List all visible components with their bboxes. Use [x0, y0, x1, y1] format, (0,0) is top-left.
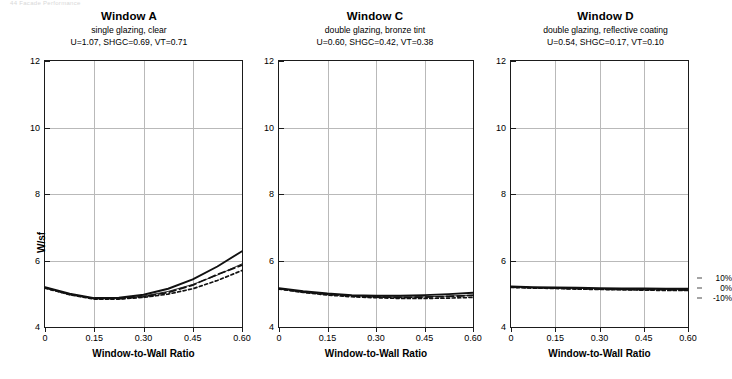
legend-label: -10%	[706, 294, 732, 303]
x-tick-label: 0.45	[416, 333, 434, 343]
panel-window-a: Window A single glazing, clear U=1.07, S…	[0, 6, 258, 379]
series-canvas	[279, 61, 473, 327]
x-tick-mark	[511, 327, 512, 332]
legend-item: 10%	[697, 273, 732, 282]
x-tick-mark	[644, 327, 645, 332]
panel-c-properties: U=0.60, SHGC=0.42, VT=0.38	[256, 37, 494, 47]
y-tick-label: 4	[269, 322, 274, 332]
legend-tick-icon	[697, 288, 702, 289]
panel-window-c: Window C double glazing, bronze tint U=0…	[256, 6, 494, 379]
x-tick-mark	[45, 327, 46, 332]
y-tick-label: 6	[501, 256, 506, 266]
x-tick-label: 0.60	[679, 333, 697, 343]
panel-d-plot-area: Window-to-Wall Ratio 10%0%-10% 468101200…	[510, 60, 689, 328]
x-tick-label: 0.15	[85, 333, 103, 343]
x-tick-mark	[376, 327, 377, 332]
series-canvas	[45, 61, 242, 327]
panel-a-properties: U=1.07, SHGC=0.69, VT=0.71	[0, 37, 258, 47]
y-tick-label: 10	[264, 123, 274, 133]
x-tick-label: 0.30	[591, 333, 609, 343]
y-tick-label: 10	[496, 123, 506, 133]
legend-label: 10%	[706, 273, 732, 282]
series-canvas	[511, 61, 688, 327]
panel-window-d: Window D double glazing, reflective coat…	[490, 6, 721, 379]
x-tick-label: 0.60	[464, 333, 482, 343]
panel-a-title: Window A	[0, 10, 258, 22]
legend-item: -10%	[697, 294, 732, 303]
x-tick-mark	[473, 327, 474, 332]
series-line	[45, 251, 242, 298]
x-tick-mark	[144, 327, 145, 332]
x-tick-mark	[425, 327, 426, 332]
panel-d-plot-box: Window-to-Wall Ratio 10%0%-10% 468101200…	[510, 60, 689, 328]
x-tick-label: 0	[508, 333, 513, 343]
y-tick-label: 10	[30, 123, 40, 133]
x-tick-mark	[242, 327, 243, 332]
x-tick-mark	[94, 327, 95, 332]
x-tick-mark	[279, 327, 280, 332]
panel-a-plot-area: W/sf Window-to-Wall Ratio 468101200.150.…	[44, 60, 243, 328]
legend-label: 0%	[706, 284, 732, 293]
legend-tick-icon	[697, 298, 702, 299]
x-tick-label: 0.15	[319, 333, 337, 343]
y-tick-label: 8	[501, 189, 506, 199]
y-tick-label: 4	[501, 322, 506, 332]
x-tick-label: 0.45	[635, 333, 653, 343]
panel-a-subtitle: single glazing, clear	[0, 25, 258, 35]
panel-a-x-axis-title: Window-to-Wall Ratio	[45, 348, 242, 359]
y-tick-label: 12	[496, 56, 506, 66]
panel-d-title: Window D	[490, 10, 721, 22]
panel-c-plot-area: Window-to-Wall Ratio 468101200.150.300.4…	[278, 60, 474, 328]
x-tick-label: 0.15	[546, 333, 564, 343]
x-tick-label: 0.60	[233, 333, 251, 343]
y-tick-label: 8	[35, 189, 40, 199]
x-tick-label: 0.30	[367, 333, 385, 343]
y-tick-label: 4	[35, 322, 40, 332]
y-tick-label: 8	[269, 189, 274, 199]
x-tick-mark	[600, 327, 601, 332]
y-tick-label: 12	[30, 56, 40, 66]
x-tick-label: 0.30	[135, 333, 153, 343]
x-tick-label: 0	[42, 333, 47, 343]
x-tick-mark	[688, 327, 689, 332]
x-tick-mark	[193, 327, 194, 332]
legend-tick-icon	[697, 277, 702, 278]
panel-d-x-axis-title: Window-to-Wall Ratio	[511, 348, 688, 359]
panel-d-subtitle: double glazing, reflective coating	[490, 25, 721, 35]
y-tick-label: 6	[269, 256, 274, 266]
panel-c-subtitle: double glazing, bronze tint	[256, 25, 494, 35]
panel-c-x-axis-title: Window-to-Wall Ratio	[279, 348, 473, 359]
panel-c-title: Window C	[256, 10, 494, 22]
x-tick-label: 0.45	[184, 333, 202, 343]
x-tick-mark	[328, 327, 329, 332]
panel-d-properties: U=0.54, SHGC=0.17, VT=0.10	[490, 37, 721, 47]
panel-c-plot-box: Window-to-Wall Ratio 468101200.150.300.4…	[278, 60, 474, 328]
y-tick-label: 6	[35, 256, 40, 266]
panel-a-plot-box: W/sf Window-to-Wall Ratio 468101200.150.…	[44, 60, 243, 328]
legend-item: 0%	[697, 284, 732, 293]
x-tick-label: 0	[276, 333, 281, 343]
x-tick-mark	[555, 327, 556, 332]
y-tick-label: 12	[264, 56, 274, 66]
